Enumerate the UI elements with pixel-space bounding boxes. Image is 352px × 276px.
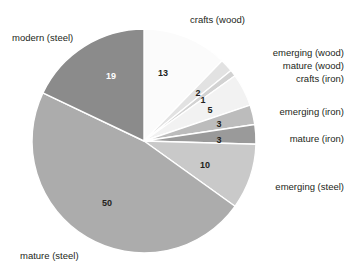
label-crafts-iron: crafts (iron) — [296, 73, 344, 84]
label-mature-wood: mature (wood) — [283, 60, 344, 71]
value-mature-iron: 3 — [216, 135, 221, 145]
label-emerging-steel: emerging (steel) — [275, 181, 344, 192]
value-modern-steel: 19 — [106, 71, 116, 81]
label-mature-iron: mature (iron) — [290, 133, 344, 144]
value-crafts-wood: 13 — [158, 68, 168, 78]
label-modern-steel: modern (steel) — [12, 32, 73, 43]
pie-chart-figure: 1321533105019 modern (steel)crafts (wood… — [0, 0, 352, 276]
value-mature-steel: 50 — [102, 198, 112, 208]
label-mature-steel: mature (steel) — [20, 250, 79, 261]
label-crafts-wood: crafts (wood) — [190, 14, 245, 25]
value-mature-wood: 1 — [200, 95, 205, 105]
value-emerging-iron: 3 — [216, 119, 221, 129]
label-emerging-wood: emerging (wood) — [273, 47, 344, 58]
label-emerging-iron: emerging (iron) — [280, 106, 344, 117]
value-emerging-steel: 10 — [200, 160, 210, 170]
value-crafts-iron: 5 — [207, 105, 212, 115]
